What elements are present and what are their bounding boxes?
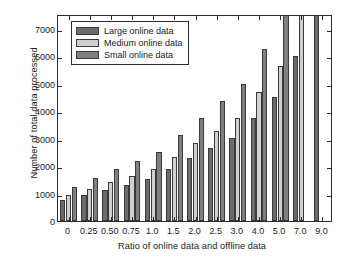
y-tick-mark bbox=[327, 196, 331, 197]
y-tick-label: 3000 bbox=[11, 135, 55, 145]
x-tick-mark bbox=[238, 217, 239, 221]
y-tick-mark bbox=[327, 168, 331, 169]
bar-chart-figure: Number of total data processed Ratio of … bbox=[0, 0, 342, 264]
legend-swatch-small bbox=[76, 51, 99, 59]
bar bbox=[220, 101, 225, 221]
bar bbox=[193, 143, 198, 221]
bar bbox=[135, 161, 140, 221]
x-tick-label: 7.0 bbox=[294, 226, 307, 236]
bar bbox=[81, 195, 86, 221]
y-tick-label: 1000 bbox=[11, 190, 55, 200]
bar bbox=[293, 56, 298, 221]
x-tick-label: 3.0 bbox=[231, 226, 244, 236]
bar bbox=[72, 187, 77, 221]
x-tick-mark bbox=[69, 16, 70, 20]
x-tick-label: 2.5 bbox=[209, 226, 222, 236]
x-tick-mark bbox=[301, 16, 302, 20]
legend-swatch-large bbox=[76, 27, 99, 35]
bar bbox=[129, 176, 134, 221]
x-axis-title: Ratio of online data and offline data bbox=[57, 241, 327, 251]
y-tick-mark bbox=[327, 31, 331, 32]
x-tick-mark bbox=[174, 16, 175, 20]
x-tick-mark bbox=[153, 217, 154, 221]
x-tick-label: 0 bbox=[65, 226, 70, 236]
bar bbox=[199, 118, 204, 221]
bar bbox=[93, 178, 98, 221]
bar bbox=[235, 118, 240, 221]
y-tick-label: 4000 bbox=[11, 107, 55, 117]
x-tick-label: 0.25 bbox=[80, 226, 98, 236]
x-tick-mark bbox=[322, 217, 323, 221]
x-tick-label: 0.50 bbox=[101, 226, 119, 236]
x-tick-mark bbox=[90, 217, 91, 221]
bar bbox=[314, 15, 319, 221]
bar bbox=[299, 15, 304, 221]
y-tick-label: 6000 bbox=[11, 52, 55, 62]
x-tick-mark bbox=[153, 16, 154, 20]
legend-item-large: Large online data bbox=[76, 25, 183, 37]
y-tick-label: 2000 bbox=[11, 162, 55, 172]
x-tick-mark bbox=[280, 217, 281, 221]
x-tick-mark bbox=[259, 217, 260, 221]
x-tick-mark bbox=[238, 16, 239, 20]
y-tick-label: 5000 bbox=[11, 80, 55, 90]
bar bbox=[172, 157, 177, 221]
y-tick-label: 0 bbox=[11, 217, 55, 227]
x-tick-mark bbox=[217, 217, 218, 221]
legend-swatch-medium bbox=[76, 39, 99, 47]
y-tick-label: 7000 bbox=[11, 25, 55, 35]
plot-area: Large online data Medium online data Sma… bbox=[57, 15, 332, 222]
x-tick-mark bbox=[322, 16, 323, 20]
x-tick-mark bbox=[174, 217, 175, 221]
bar bbox=[208, 148, 213, 221]
y-tick-mark bbox=[327, 113, 331, 114]
bar bbox=[187, 158, 192, 221]
bar bbox=[178, 135, 183, 221]
y-tick-mark bbox=[58, 196, 62, 197]
y-tick-mark bbox=[58, 31, 62, 32]
bar bbox=[256, 92, 261, 221]
legend-label-large: Large online data bbox=[104, 26, 174, 36]
x-tick-mark bbox=[111, 217, 112, 221]
bar bbox=[283, 15, 288, 221]
bar bbox=[262, 49, 267, 221]
x-tick-mark bbox=[301, 217, 302, 221]
bar bbox=[229, 138, 234, 221]
legend-item-medium: Medium online data bbox=[76, 37, 183, 49]
bar bbox=[108, 182, 113, 221]
x-tick-label: 0.75 bbox=[122, 226, 140, 236]
bar bbox=[241, 84, 246, 221]
bar bbox=[166, 169, 171, 221]
bar bbox=[60, 200, 65, 221]
bar bbox=[151, 169, 156, 221]
x-tick-mark bbox=[196, 16, 197, 20]
x-tick-mark bbox=[90, 16, 91, 20]
bar bbox=[114, 169, 119, 221]
bar bbox=[156, 152, 161, 221]
y-tick-mark bbox=[58, 168, 62, 169]
x-tick-label: 5.0 bbox=[273, 226, 286, 236]
x-tick-mark bbox=[259, 16, 260, 20]
y-tick-mark bbox=[58, 58, 62, 59]
bar bbox=[251, 118, 256, 221]
x-tick-mark bbox=[132, 16, 133, 20]
y-tick-mark bbox=[327, 86, 331, 87]
bar bbox=[272, 97, 277, 221]
legend-label-medium: Medium online data bbox=[104, 38, 183, 48]
x-tick-mark bbox=[111, 16, 112, 20]
y-tick-mark bbox=[58, 86, 62, 87]
x-tick-label: 9.0 bbox=[315, 226, 328, 236]
x-tick-mark bbox=[217, 16, 218, 20]
bar bbox=[124, 185, 129, 221]
legend-item-small: Small online data bbox=[76, 49, 183, 61]
x-tick-mark bbox=[132, 217, 133, 221]
x-tick-label: 1.0 bbox=[146, 226, 159, 236]
y-tick-mark bbox=[58, 141, 62, 142]
x-tick-mark bbox=[69, 217, 70, 221]
y-tick-mark bbox=[58, 113, 62, 114]
x-tick-label: 4.0 bbox=[252, 226, 265, 236]
bar bbox=[278, 66, 283, 221]
bar bbox=[214, 131, 219, 221]
chart-legend: Large online data Medium online data Sma… bbox=[71, 21, 189, 65]
x-tick-label: 1.5 bbox=[167, 226, 180, 236]
